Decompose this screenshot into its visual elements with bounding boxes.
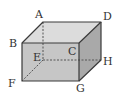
- vertex-label-b: B: [9, 37, 17, 50]
- vertex-label-f: F: [8, 77, 16, 90]
- vertex-label-h: H: [103, 55, 113, 68]
- vertex-label-a: A: [34, 8, 44, 21]
- cuboid-diagram: A D B C E H F G: [0, 0, 119, 108]
- vertex-label-g: G: [76, 82, 85, 95]
- vertex-label-d: D: [103, 10, 112, 23]
- vertex-label-c: C: [68, 45, 76, 58]
- vertex-label-e: E: [33, 51, 41, 64]
